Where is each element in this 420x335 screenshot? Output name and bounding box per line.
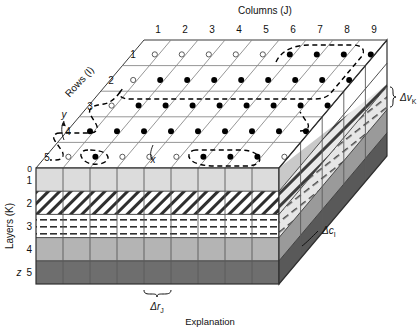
- front-layer-4: [36, 238, 279, 261]
- cell-marker-filled: [92, 154, 98, 160]
- column-label-5: 5: [263, 24, 269, 35]
- row-label-4: 4: [65, 126, 71, 137]
- cell-marker-filled: [298, 103, 304, 109]
- column-label-6: 6: [290, 24, 296, 35]
- cell-marker-filled: [211, 77, 217, 83]
- cell-marker-filled: [217, 103, 223, 109]
- cell-marker-open: [66, 154, 71, 159]
- cell-marker-filled: [244, 103, 250, 109]
- cell-marker-open: [179, 52, 184, 57]
- cell-marker-filled: [114, 128, 120, 134]
- row-label-1: 1: [130, 49, 136, 60]
- axis-label-y: y: [61, 109, 68, 120]
- layer-label-2: 2: [26, 198, 32, 209]
- column-label-9: 9: [371, 24, 377, 35]
- column-label-8: 8: [344, 24, 350, 35]
- layer-label-5: 5: [26, 267, 32, 278]
- cell-marker-open: [131, 77, 136, 82]
- cell-marker-open: [120, 154, 125, 159]
- delta-c-label: ΔcI: [321, 225, 336, 238]
- cell-marker-filled: [238, 77, 244, 83]
- cell-marker-filled: [141, 128, 147, 134]
- column-label-3: 3: [209, 24, 215, 35]
- column-label-1: 1: [155, 24, 161, 35]
- front-layer-5: [36, 261, 279, 284]
- front-layer-3: [36, 214, 279, 237]
- row-label-2: 2: [108, 75, 114, 86]
- layer-label-3: 3: [26, 221, 32, 232]
- cell-marker-open: [152, 52, 157, 57]
- cell-marker-filled: [314, 51, 320, 57]
- delta-r-annotation: ΔrJ: [144, 290, 171, 314]
- axis-label-z: z: [16, 267, 22, 278]
- row-label-5: 5: [44, 152, 50, 163]
- cell-marker-filled: [163, 103, 169, 109]
- cell-marker-filled: [249, 128, 255, 134]
- cell-marker-filled: [190, 103, 196, 109]
- rows-axis-title: Rows (I): [63, 64, 96, 99]
- row-label-3: 3: [87, 101, 93, 112]
- explanation-caption: Explanation: [0, 316, 420, 327]
- cell-marker-filled: [168, 128, 174, 134]
- cell-marker-filled: [319, 77, 325, 83]
- cell-marker-filled: [157, 77, 163, 83]
- cell-marker-filled: [276, 128, 282, 134]
- aquifer-discretization-diagram: Columns (J) 1 2 3 4 5 6 7 8 9 Rows (I) 1…: [0, 0, 420, 335]
- delta-v-label: ΔvK: [399, 92, 417, 105]
- layer-label-1: 1: [26, 175, 32, 186]
- delta-v-annotation: ΔvK: [390, 87, 417, 107]
- column-number-labels: 1 2 3 4 5 6 7 8 9: [155, 24, 377, 35]
- column-label-4: 4: [236, 24, 242, 35]
- delta-r-label: ΔrJ: [149, 301, 164, 314]
- cell-marker-filled: [271, 103, 277, 109]
- cell-marker-filled: [200, 154, 206, 160]
- cell-marker-open: [109, 103, 114, 108]
- cell-marker-open: [206, 52, 211, 57]
- layer-label-4: 4: [26, 244, 32, 255]
- cell-marker-open: [260, 52, 265, 57]
- layer-label-0: 0: [27, 164, 32, 174]
- front-face-layers: [36, 168, 279, 284]
- cell-marker-filled: [341, 51, 347, 57]
- column-label-2: 2: [182, 24, 188, 35]
- column-label-7: 7: [317, 24, 323, 35]
- front-layer-1: [36, 168, 279, 191]
- layer-number-labels: 0 1 2 3 4 5: [26, 164, 32, 278]
- cell-marker-open: [233, 52, 238, 57]
- cell-marker-filled: [136, 103, 142, 109]
- columns-axis-title: Columns (J): [238, 5, 292, 16]
- cell-marker-filled: [184, 77, 190, 83]
- cell-marker-filled: [265, 77, 271, 83]
- cell-marker-filled: [227, 154, 233, 160]
- cell-marker-open: [174, 154, 179, 159]
- cell-marker-filled: [195, 128, 201, 134]
- cell-marker-filled: [292, 77, 298, 83]
- cell-marker-filled: [287, 51, 293, 57]
- front-layer-2: [36, 191, 279, 214]
- cell-marker-filled: [222, 128, 228, 134]
- layers-axis-title: Layers (K): [4, 203, 15, 249]
